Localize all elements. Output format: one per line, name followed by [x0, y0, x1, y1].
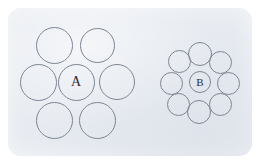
surrounding-circle	[160, 72, 183, 95]
surrounding-circle	[80, 28, 115, 63]
center-circle-a-label: A	[71, 75, 81, 89]
surrounding-circle	[99, 64, 135, 100]
surrounding-circle	[167, 93, 190, 116]
surrounding-circle	[209, 93, 232, 116]
surrounding-circle	[217, 72, 240, 95]
center-circle-b-label: B	[196, 77, 203, 88]
ebbinghaus-illusion-figure: A B	[0, 0, 262, 168]
surrounding-circle	[209, 51, 232, 74]
surrounding-circle	[36, 102, 73, 139]
surrounding-circle	[168, 50, 191, 73]
surrounding-circle	[187, 100, 211, 124]
center-circle-b: B	[189, 71, 211, 93]
surrounding-circle	[36, 27, 73, 64]
illusion-card-panel: A B	[8, 8, 252, 156]
surrounding-circle	[20, 64, 57, 101]
surrounding-circle	[79, 102, 116, 139]
center-circle-a: A	[58, 64, 95, 101]
